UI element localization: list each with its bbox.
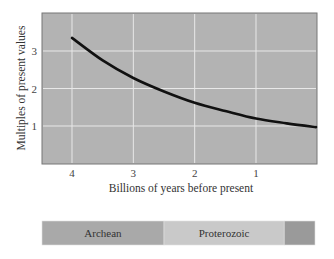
- y-tick-label: 1: [32, 120, 38, 132]
- x-tick-label: 3: [131, 167, 137, 179]
- x-axis-ticks: 4321: [69, 167, 258, 179]
- chart: 123 4321 Multiples of present values Bil…: [0, 0, 334, 259]
- y-axis-ticks: 123: [32, 45, 38, 132]
- era-label: Proterozoic: [199, 227, 250, 239]
- x-tick-label: 2: [192, 167, 198, 179]
- timeline-segment: [284, 221, 315, 245]
- y-tick-label: 3: [32, 45, 38, 57]
- y-axis-title: Multiples of present values: [15, 25, 28, 150]
- x-tick-label: 4: [69, 167, 75, 179]
- x-tick-label: 1: [253, 167, 259, 179]
- geologic-timeline: ArcheanProterozoic: [42, 221, 315, 245]
- y-tick-label: 2: [32, 83, 38, 95]
- era-label: Archean: [84, 227, 122, 239]
- x-axis-title: Billions of years before present: [109, 182, 254, 195]
